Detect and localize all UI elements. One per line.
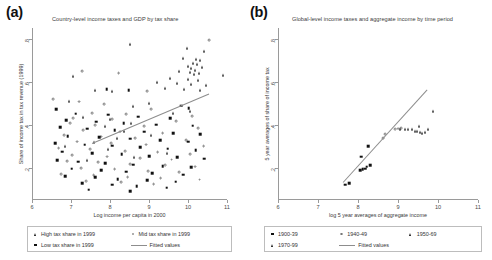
data-point: [193, 73, 195, 76]
figure-container: (a) Country-level income taxes and GDP b…: [0, 0, 492, 260]
y-tick-label: .6: [24, 82, 30, 86]
data-point: [86, 127, 89, 130]
data-point: [60, 172, 63, 175]
data-point: [65, 119, 68, 122]
legend-label: Fitted values: [150, 242, 181, 248]
data-point: [172, 132, 175, 135]
legend-item: Fitted values: [339, 242, 389, 248]
data-point: [79, 167, 82, 170]
data-point: [111, 90, 113, 93]
data-point: [86, 159, 88, 162]
data-point: [416, 129, 418, 132]
data-point: [135, 185, 138, 188]
data-point: [104, 125, 106, 128]
data-point: [195, 149, 198, 152]
data-point: [190, 166, 193, 169]
x-tick-label: 10: [435, 204, 441, 210]
legend-marker-circ: [339, 232, 344, 237]
data-point: [143, 130, 146, 133]
data-point: [94, 89, 96, 92]
data-point: [407, 127, 409, 130]
data-point: [123, 150, 126, 153]
x-tick: [227, 200, 228, 203]
data-point: [194, 165, 197, 168]
panel-b: (b) Global-level income taxes and aggreg…: [246, 0, 492, 260]
y-tick-label: .4: [24, 125, 30, 129]
x-tick-label: 7: [69, 204, 72, 210]
y-axis-title: 5 year averages of share of income tax: [264, 67, 270, 160]
data-point: [155, 123, 158, 126]
data-point: [421, 131, 423, 134]
x-tick-label: 11: [224, 204, 230, 210]
legend-item: 1970-99: [270, 242, 298, 248]
data-point: [75, 140, 78, 143]
data-point: [348, 182, 351, 185]
legend-item: 1900-39: [270, 231, 298, 237]
data-point: [137, 115, 140, 118]
data-point: [69, 122, 72, 125]
data-point: [144, 143, 147, 146]
data-point: [190, 82, 192, 85]
x-tick: [110, 200, 111, 203]
data-point: [172, 111, 174, 114]
legend-label: Fitted values: [358, 242, 389, 248]
data-point: [66, 159, 69, 162]
data-point: [129, 137, 132, 140]
data-point: [367, 145, 370, 148]
panel-a-legend: High tax share in 1999Mid tax share in 1…: [27, 226, 232, 252]
panel-b-plot-area: 67891011.2.4.6.85 year averages of share…: [278, 28, 478, 200]
data-point: [103, 103, 106, 106]
panel-b-label: (b): [250, 4, 268, 20]
data-point: [129, 43, 131, 46]
data-point: [150, 108, 153, 111]
data-point: [107, 148, 109, 151]
legend-line-swatch: [339, 245, 355, 246]
legend-marker-tri: [270, 243, 275, 248]
x-tick: [478, 200, 479, 203]
legend-item: Fitted values: [131, 242, 181, 248]
data-point: [63, 134, 66, 137]
legend-label: Mid tax share in 1999: [139, 231, 191, 237]
y-tick-label: .8: [24, 39, 30, 43]
data-point: [120, 153, 123, 156]
data-point: [67, 135, 70, 138]
data-point: [192, 61, 194, 64]
data-point: [81, 70, 84, 73]
x-tick-label: 6: [276, 204, 279, 210]
data-point: [161, 132, 164, 135]
data-point: [132, 163, 135, 166]
data-point: [432, 109, 434, 112]
data-point: [77, 100, 80, 103]
data-point: [84, 180, 87, 183]
data-point: [91, 112, 94, 115]
x-tick-label: 8: [356, 204, 359, 210]
y-axis-title: Share of income tax in tax revenue (1999…: [18, 64, 24, 164]
data-point: [125, 170, 128, 173]
data-point: [176, 81, 178, 84]
legend-line-swatch: [131, 245, 147, 246]
x-tick: [32, 200, 33, 203]
data-point: [104, 162, 107, 165]
legend-marker-tri: [409, 232, 414, 237]
data-point: [169, 76, 171, 79]
x-tick: [358, 200, 359, 203]
data-point: [146, 90, 149, 93]
data-point: [186, 47, 188, 50]
legend-item: Low tax share in 1999: [33, 242, 94, 248]
data-point: [411, 128, 413, 131]
panel-a-x-axis: [32, 199, 227, 200]
data-point: [127, 89, 130, 92]
y-tick-label: .6: [270, 82, 276, 86]
data-point: [152, 182, 155, 185]
data-point: [189, 152, 192, 155]
data-point: [187, 65, 189, 68]
legend-label: 1950-69: [417, 231, 437, 237]
data-point: [116, 137, 118, 140]
data-point: [82, 116, 84, 119]
data-point: [64, 145, 66, 148]
x-tick: [149, 200, 150, 203]
legend-marker-tri: [33, 232, 38, 237]
y-tick-label: .4: [270, 125, 276, 129]
data-point: [187, 107, 190, 110]
panel-a: (a) Country-level income taxes and GDP b…: [0, 0, 246, 260]
